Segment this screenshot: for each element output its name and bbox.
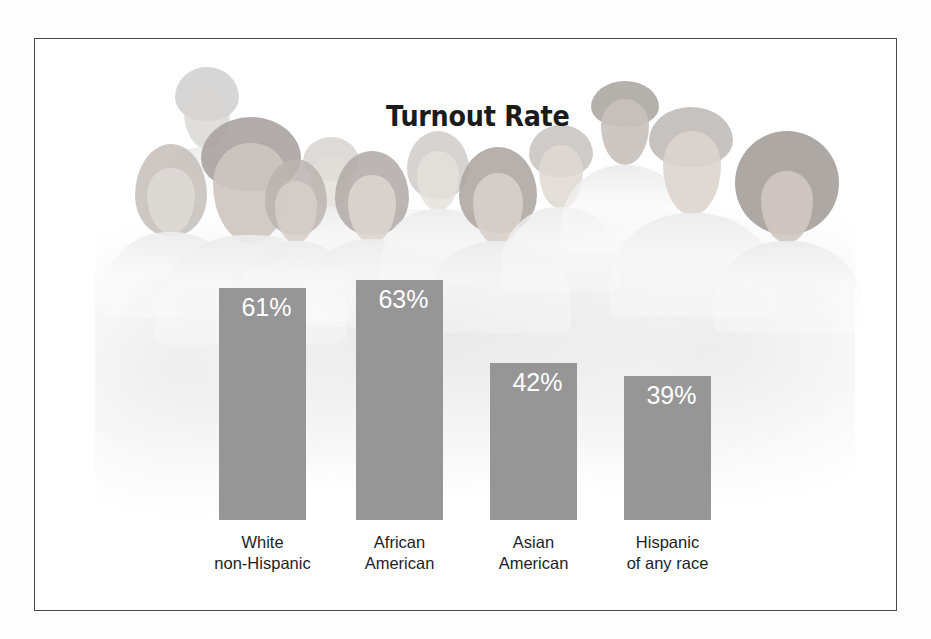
bar-group-african-american: 63% African American [356, 280, 443, 520]
bar-category-label: Asian American [456, 532, 611, 574]
bar: 63% [356, 280, 443, 520]
bar: 42% [490, 363, 577, 520]
bar-category-label-line2: of any race [590, 553, 745, 574]
bar-category-label: African American [322, 532, 477, 574]
bar-value-label: 42% [490, 369, 577, 395]
bar-value-label: 39% [624, 382, 711, 408]
bar-category-label-line1: African [322, 532, 477, 553]
bar-value-label: 63% [356, 286, 443, 312]
bar: 39% [624, 376, 711, 520]
bar-category-label-line2: non-Hispanic [185, 553, 340, 574]
bar-group-hispanic-of-any-race: 39% Hispanic of any race [624, 376, 711, 520]
bar-group-white-non-hispanic: 61% White non-Hispanic [219, 288, 306, 520]
bar-category-label-line1: Hispanic [590, 532, 745, 553]
bar-value-label: 61% [219, 294, 306, 320]
bar-chart-plot-area: 61% White non-Hispanic 63% African Ameri… [35, 39, 896, 610]
bar-group-asian-american: 42% Asian American [490, 363, 577, 520]
bar-category-label: White non-Hispanic [185, 532, 340, 574]
bar-category-label-line2: American [322, 553, 477, 574]
bar: 61% [219, 288, 306, 520]
figure-frame: Turnout Rate 61% White non-Hispanic 63% … [34, 38, 897, 611]
bar-category-label-line1: Asian [456, 532, 611, 553]
bar-category-label-line2: American [456, 553, 611, 574]
bar-category-label-line1: White [185, 532, 340, 553]
bar-category-label: Hispanic of any race [590, 532, 745, 574]
